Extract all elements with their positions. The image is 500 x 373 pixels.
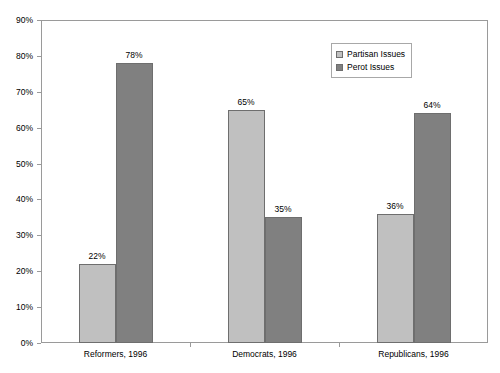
x-axis-category-label: Democrats, 1996: [190, 348, 339, 360]
bar: [116, 63, 153, 343]
y-axis-tick-label: 80%: [16, 51, 33, 61]
y-axis-tick-label: 90%: [16, 15, 33, 25]
bar-value-label: 78%: [116, 50, 153, 60]
y-axis-tick-label: 20%: [16, 266, 33, 276]
bar-value-label: 35%: [265, 204, 302, 214]
y-axis-tick-mark: [37, 343, 41, 344]
bar-value-label: 65%: [228, 97, 265, 107]
legend-item-label: Perot Issues: [347, 62, 394, 72]
bar-value-label: 64%: [414, 100, 451, 110]
bar: [414, 113, 451, 343]
bar-value-label: 36%: [377, 201, 414, 211]
legend-item: Perot Issues: [336, 61, 405, 73]
x-axis-tick-mark: [339, 343, 340, 347]
chart-legend: Partisan IssuesPerot Issues: [331, 43, 412, 78]
x-axis-category-label: Republicans, 1996: [339, 348, 488, 360]
y-axis-tick-label: 30%: [16, 230, 33, 240]
bar: [377, 214, 414, 343]
y-axis-tick-label: 0%: [21, 338, 33, 348]
legend-item-label: Partisan Issues: [347, 49, 405, 59]
y-axis-tick-label: 10%: [16, 302, 33, 312]
legend-swatch-icon: [336, 51, 343, 58]
legend-swatch-icon: [336, 64, 343, 71]
y-axis-tick-label: 40%: [16, 194, 33, 204]
bar: [228, 110, 265, 343]
x-axis-tick-mark: [190, 343, 191, 347]
bar-value-label: 22%: [79, 251, 116, 261]
bar-chart: 0%10%20%30%40%50%60%70%80%90% 22%78%65%3…: [0, 0, 500, 373]
y-axis-tick-label: 60%: [16, 123, 33, 133]
bar: [79, 264, 116, 343]
legend-item: Partisan Issues: [336, 48, 405, 60]
bar: [265, 217, 302, 343]
y-axis: 0%10%20%30%40%50%60%70%80%90%: [0, 0, 41, 373]
y-axis-tick-label: 50%: [16, 159, 33, 169]
y-axis-tick-label: 70%: [16, 87, 33, 97]
x-axis-category-label: Reformers, 1996: [41, 348, 190, 360]
x-axis: Reformers, 1996Democrats, 1996Republican…: [41, 348, 488, 368]
bars-layer: 22%78%65%35%36%64%: [41, 20, 488, 343]
